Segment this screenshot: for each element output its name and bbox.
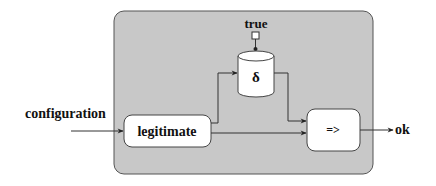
constant-port-true [252, 32, 259, 39]
connector-dot-icon [254, 47, 258, 51]
diagram-canvas: configuration legitimate true δ => ok [0, 0, 436, 186]
output-label-ok: ok [395, 122, 410, 137]
node-delta-label: δ [252, 69, 260, 85]
node-legitimate-label: legitimate [137, 124, 196, 139]
constant-label-true: true [244, 16, 267, 31]
node-implies-label: => [326, 123, 340, 137]
input-label-configuration: configuration [25, 106, 106, 121]
